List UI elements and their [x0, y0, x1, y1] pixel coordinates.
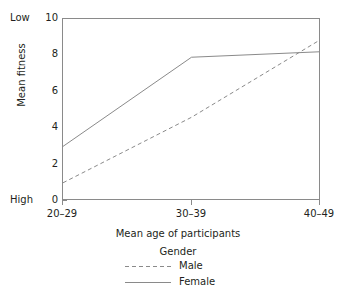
y-tick-label-10: 10 — [36, 13, 58, 23]
legend-item-female: Female — [0, 274, 356, 290]
legend-item-male: Male — [0, 258, 356, 274]
chart-figure: Low High Mean fitness 10 8 6 4 2 0 20–29… — [0, 0, 356, 303]
y-tick-label-6: 6 — [36, 86, 58, 96]
x-tick-label-20-29: 20–29 — [32, 209, 92, 219]
x-tick-label-40-49: 40–49 — [289, 209, 349, 219]
legend: Gender Male Female — [0, 245, 356, 290]
x-axis-title: Mean age of participants — [0, 228, 356, 239]
legend-title: Gender — [0, 245, 356, 258]
legend-swatch-female-icon — [125, 278, 171, 287]
y-axis-bottom-annotation: High — [10, 195, 33, 205]
x-tick-mark-0 — [62, 200, 63, 205]
legend-label-male: Male — [179, 261, 231, 271]
y-tick-label-0: 0 — [36, 195, 58, 205]
x-tick-mark-2 — [319, 200, 320, 205]
series-line-male — [63, 40, 320, 183]
y-tick-label-2: 2 — [36, 159, 58, 169]
plot-area — [62, 18, 320, 200]
y-axis-top-annotation: Low — [10, 13, 30, 23]
y-tick-label-8: 8 — [36, 49, 58, 59]
y-tick-label-4: 4 — [36, 122, 58, 132]
x-tick-mark-1 — [191, 200, 192, 205]
series-line-female — [63, 52, 320, 147]
y-axis-title: Mean fitness — [17, 25, 27, 125]
legend-swatch-male-icon — [125, 262, 171, 271]
series-layer — [63, 19, 321, 201]
legend-label-female: Female — [179, 277, 231, 287]
x-tick-label-30-39: 30–39 — [161, 209, 221, 219]
